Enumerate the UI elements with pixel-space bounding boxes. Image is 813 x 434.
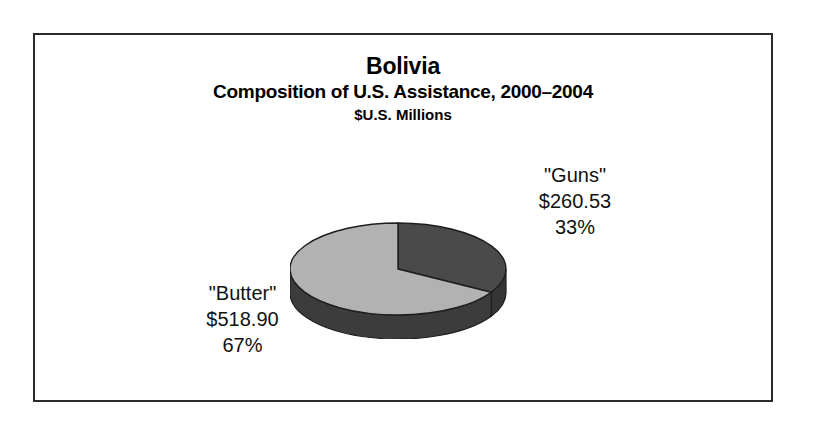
pie-label-butter: "Butter" $518.90 67% [155, 280, 330, 358]
pie-label-guns-percent: 33% [495, 214, 655, 240]
pie-label-butter-name: "Butter" [155, 280, 330, 306]
pie-label-butter-value: $518.90 [155, 306, 330, 332]
pie-label-butter-percent: 67% [155, 332, 330, 358]
pie-label-guns: "Guns" $260.53 33% [495, 162, 655, 240]
pie-label-guns-name: "Guns" [495, 162, 655, 188]
pie-label-guns-value: $260.53 [495, 188, 655, 214]
pie-chart: "Guns" $260.53 33% "Butter" $518.90 67% [35, 35, 775, 404]
chart-frame: Bolivia Composition of U.S. Assistance, … [33, 33, 773, 402]
